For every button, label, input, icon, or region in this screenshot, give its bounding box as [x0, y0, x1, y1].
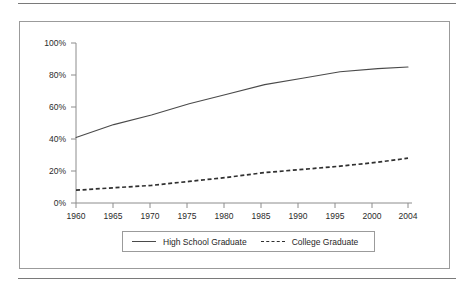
- x-tick-label-1980: 1980: [207, 212, 241, 221]
- legend-entry-high-school-graduate: High School Graduate: [132, 232, 247, 251]
- legend-entry-college-graduate: College Graduate: [261, 232, 359, 251]
- x-tick-label-1975: 1975: [170, 212, 204, 221]
- y-axis-ticks: [71, 43, 76, 203]
- x-tick-label-1995: 1995: [318, 212, 352, 221]
- x-tick-label-1985: 1985: [244, 212, 278, 221]
- series-high-school-graduate: [76, 67, 408, 137]
- x-axis-ticks: [76, 203, 408, 208]
- x-tick-label-1990: 1990: [281, 212, 315, 221]
- chart-legend: High School Graduate College Graduate: [122, 231, 375, 252]
- series-college-graduate: [76, 158, 408, 190]
- x-tick-label-1970: 1970: [133, 212, 167, 221]
- legend-line-dashed-icon: [261, 237, 285, 246]
- y-tick-label-100: 100%: [36, 39, 66, 48]
- legend-line-solid-icon: [132, 237, 156, 246]
- y-tick-label-40: 40%: [36, 135, 66, 144]
- y-tick-label-80: 80%: [36, 71, 66, 80]
- y-tick-label-60: 60%: [36, 103, 66, 112]
- x-tick-label-1960: 1960: [59, 212, 93, 221]
- x-tick-label-1965: 1965: [96, 212, 130, 221]
- x-tick-label-2000: 2000: [355, 212, 389, 221]
- y-tick-label-0: 0%: [36, 199, 66, 208]
- legend-label-college-graduate: College Graduate: [292, 237, 359, 247]
- y-tick-label-20: 20%: [36, 167, 66, 176]
- x-tick-label-2004: 2004: [391, 212, 425, 221]
- legend-label-high-school-graduate: High School Graduate: [163, 237, 247, 247]
